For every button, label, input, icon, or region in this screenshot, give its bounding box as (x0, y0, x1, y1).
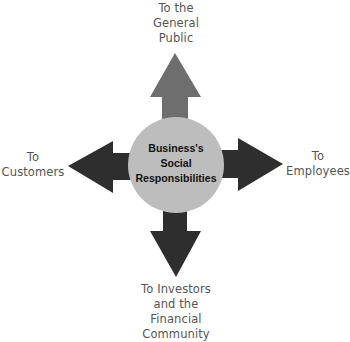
label-general-public: To the General Public (126, 1, 226, 46)
label-employees: To Employees (286, 149, 350, 179)
label-customers: To Customers (0, 150, 66, 180)
label-investors: To Investors and the Financial Community (116, 282, 236, 342)
center-label: Business's Social Responsibilities (128, 141, 224, 186)
